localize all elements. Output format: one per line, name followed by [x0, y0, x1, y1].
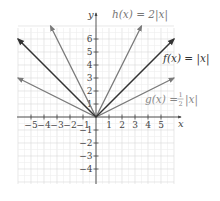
h-function-label: h(x) = 2|x|: [112, 8, 168, 22]
x-tick-label: −5: [24, 120, 38, 130]
absolute-value-graph: −5−4−3−2−112345−4−3−2−1123456 y x h(x) =…: [0, 0, 220, 201]
y-tick-label: −4: [79, 164, 93, 174]
x-tick-label: 3: [132, 120, 138, 130]
x-axis-label: x: [178, 118, 184, 129]
y-tick-label: −1: [79, 125, 92, 135]
x-tick-label: −2: [63, 120, 76, 130]
x-tick-label: −4: [37, 120, 51, 130]
x-tick-label: 1: [106, 120, 112, 130]
y-tick-label: 2: [87, 86, 93, 96]
g-label-frac-den: 2: [179, 100, 183, 108]
y-axis-label: y: [87, 9, 94, 20]
x-tick-label: 5: [158, 120, 164, 130]
y-tick-label: −3: [79, 151, 93, 161]
y-tick-label: 6: [87, 34, 93, 44]
y-tick-label: −2: [79, 138, 92, 148]
y-tick-label: 3: [87, 73, 93, 83]
g-label-frac-num: 1: [179, 91, 183, 99]
g-function-label: g(x) = 1 2 |x|: [145, 91, 198, 108]
g-label-prefix: g(x) =: [145, 93, 178, 105]
y-tick-label: 5: [87, 47, 93, 57]
x-tick-label: 4: [145, 120, 151, 130]
x-tick-label: −3: [50, 120, 64, 130]
f-function-label: f(x) = |x|: [162, 52, 209, 66]
y-tick-label: 4: [87, 60, 93, 70]
x-tick-label: 2: [119, 120, 125, 130]
g-label-suffix: |x|: [185, 93, 198, 107]
